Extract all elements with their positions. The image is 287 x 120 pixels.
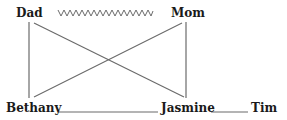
- node-jasmine: Jasmine: [161, 101, 215, 115]
- node-bethany: Bethany: [6, 101, 62, 115]
- family-diagram: Dad Mom Bethany Jasmine Tim: [0, 0, 287, 120]
- node-tim: Tim: [251, 101, 277, 115]
- node-mom: Mom: [171, 6, 205, 20]
- node-dad: Dad: [16, 6, 43, 20]
- zigzag-dad-mom: [58, 10, 153, 16]
